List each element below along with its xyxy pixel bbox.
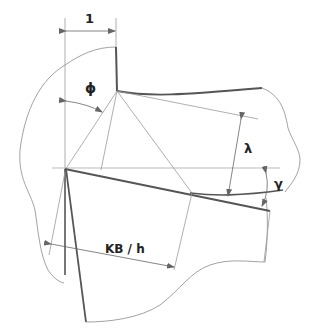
- label-kb-h: KB / h: [105, 242, 145, 256]
- flank-ref-line: [49, 172, 65, 255]
- phi-arc: [66, 101, 102, 112]
- rake-end-ref: [264, 211, 270, 262]
- cutting-geometry-diagram: 1 ϕ λ γ KB / h: [0, 0, 314, 336]
- label-gamma: γ: [274, 176, 283, 191]
- chip-top-surface: [117, 88, 262, 95]
- chip-underside: [190, 190, 283, 195]
- label-lambda: λ: [244, 141, 252, 156]
- label-phi: ϕ: [85, 80, 96, 96]
- label-dim-1: 1: [85, 11, 94, 26]
- tool-edge-flank: [66, 169, 86, 322]
- kb-right-ref: [174, 193, 192, 270]
- lambda-ref-line: [117, 91, 258, 119]
- lambda-arrow: [228, 119, 241, 196]
- tool-edge-vertical: [116, 47, 117, 91]
- rake-face: [65, 169, 270, 211]
- shear-line-3: [117, 91, 192, 193]
